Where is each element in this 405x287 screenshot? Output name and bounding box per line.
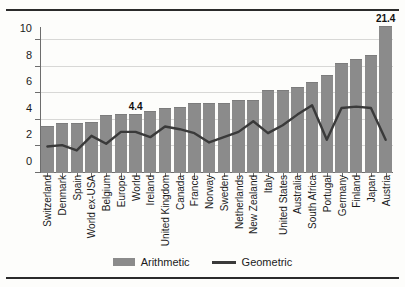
x-axis-label: Europe bbox=[115, 175, 126, 207]
x-axis-label: Belgium bbox=[101, 175, 112, 211]
x-axis-labels: SwitzerlandDenmarkSpainWorld ex-USABelgi… bbox=[40, 175, 393, 253]
legend-label-arithmetic: Arithmetic bbox=[141, 256, 190, 268]
x-label-slot: World ex-USA bbox=[84, 175, 99, 253]
x-label-slot: France bbox=[187, 175, 202, 253]
x-axis-label: Spain bbox=[71, 175, 82, 201]
x-label-slot: Ireland bbox=[143, 175, 158, 253]
x-axis-label: Denmark bbox=[57, 175, 68, 216]
x-axis-label: France bbox=[189, 175, 200, 206]
x-axis-label: Portugal bbox=[321, 175, 332, 212]
x-axis-label: Switzerland bbox=[42, 175, 53, 227]
x-label-slot: Portugal bbox=[319, 175, 334, 253]
x-axis-label: United Kingdom bbox=[160, 175, 171, 246]
plot-area: 0246810 4.421.4 bbox=[40, 27, 393, 173]
x-label-slot: Denmark bbox=[55, 175, 70, 253]
legend-label-geometric: Geometric bbox=[242, 256, 293, 268]
top-rule bbox=[6, 9, 399, 11]
y-tick-label: 8 bbox=[26, 49, 32, 61]
x-axis-label: World bbox=[130, 175, 141, 201]
x-label-slot: Finland bbox=[349, 175, 364, 253]
bottom-rule bbox=[6, 277, 399, 279]
y-tick-label: 4 bbox=[26, 102, 32, 114]
x-axis-label: World ex-USA bbox=[86, 175, 97, 238]
x-label-slot: Australia bbox=[290, 175, 305, 253]
x-axis-label: United States bbox=[277, 175, 288, 235]
x-label-slot: Austria bbox=[378, 175, 393, 253]
x-axis-label: Australia bbox=[292, 175, 303, 214]
x-label-slot: Switzerland bbox=[40, 175, 55, 253]
x-label-slot: Europe bbox=[114, 175, 129, 253]
x-axis-label: New Zealand bbox=[248, 175, 259, 234]
x-label-slot: Canada bbox=[172, 175, 187, 253]
x-label-slot: New Zealand bbox=[246, 175, 261, 253]
y-tick-label: 2 bbox=[26, 128, 32, 140]
line-swatch-icon bbox=[212, 261, 236, 264]
x-label-slot: Spain bbox=[69, 175, 84, 253]
x-axis-label: Ireland bbox=[145, 175, 156, 206]
x-label-slot: Norway bbox=[202, 175, 217, 253]
legend-item-geometric: Geometric bbox=[212, 256, 293, 268]
line-series-geometric bbox=[40, 27, 393, 173]
x-axis-label: Germany bbox=[336, 175, 347, 216]
x-axis-label: Austria bbox=[380, 175, 391, 206]
x-axis-label: Japan bbox=[365, 175, 376, 202]
x-axis-label: Finland bbox=[351, 175, 362, 208]
x-label-slot: Japan bbox=[364, 175, 379, 253]
x-axis-label: Canada bbox=[174, 175, 185, 210]
x-axis-label: South Africa bbox=[307, 175, 318, 229]
x-label-slot: Sweden bbox=[217, 175, 232, 253]
x-axis-label: Italy bbox=[262, 175, 273, 193]
y-tick-label: 10 bbox=[20, 22, 32, 34]
bar-swatch-icon bbox=[113, 258, 135, 266]
x-label-slot: South Africa bbox=[305, 175, 320, 253]
bar-value-label: 21.4 bbox=[376, 13, 395, 24]
x-axis-label: Sweden bbox=[218, 175, 229, 211]
x-label-slot: Netherlands bbox=[231, 175, 246, 253]
x-axis-label: Netherlands bbox=[233, 175, 244, 229]
x-label-slot: Germany bbox=[334, 175, 349, 253]
y-tick-label: 0 bbox=[26, 155, 32, 167]
y-tick-label: 6 bbox=[26, 75, 32, 87]
x-axis-label: Norway bbox=[204, 175, 215, 209]
x-label-slot: Italy bbox=[261, 175, 276, 253]
x-label-slot: World bbox=[128, 175, 143, 253]
x-label-slot: United States bbox=[275, 175, 290, 253]
chart-figure: 0246810 4.421.4 SwitzerlandDenmarkSpainW… bbox=[0, 0, 405, 287]
legend-item-arithmetic: Arithmetic bbox=[113, 256, 190, 268]
x-label-slot: Belgium bbox=[99, 175, 114, 253]
chart-legend: Arithmetic Geometric bbox=[0, 256, 405, 268]
x-label-slot: United Kingdom bbox=[158, 175, 173, 253]
